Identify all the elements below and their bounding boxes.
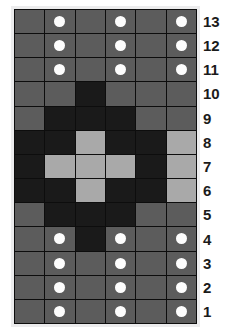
dot-symbol-icon: [54, 40, 65, 51]
grid-cell[interactable]: [167, 276, 196, 299]
grid-cell[interactable]: [45, 227, 74, 250]
grid-cell[interactable]: [136, 300, 165, 323]
grid-cell[interactable]: [76, 155, 105, 178]
grid-cell[interactable]: [76, 131, 105, 154]
grid-cell[interactable]: [15, 107, 44, 130]
grid-cell[interactable]: [136, 34, 165, 57]
dot-symbol-icon: [176, 258, 187, 269]
grid-cell[interactable]: [15, 82, 44, 105]
grid-cell[interactable]: [167, 300, 196, 323]
row-number-label: 3: [203, 251, 235, 275]
grid-cell[interactable]: [15, 155, 44, 178]
grid-cell[interactable]: [106, 58, 135, 81]
grid-cell[interactable]: [136, 131, 165, 154]
grid-cell[interactable]: [15, 58, 44, 81]
dot-symbol-icon: [176, 306, 187, 317]
grid-cell[interactable]: [76, 179, 105, 202]
pattern-grid[interactable]: [14, 9, 197, 324]
grid-cell[interactable]: [15, 10, 44, 33]
grid-cell[interactable]: [136, 107, 165, 130]
grid-cell[interactable]: [15, 300, 44, 323]
grid-cell[interactable]: [106, 300, 135, 323]
row-number-label: 13: [203, 9, 235, 33]
grid-cell[interactable]: [45, 131, 74, 154]
grid-cell[interactable]: [45, 107, 74, 130]
dot-symbol-icon: [115, 40, 126, 51]
grid-cell[interactable]: [106, 203, 135, 226]
grid-cell[interactable]: [136, 276, 165, 299]
grid-cell[interactable]: [15, 252, 44, 275]
grid-cell[interactable]: [106, 34, 135, 57]
dot-symbol-icon: [115, 16, 126, 27]
grid-cell[interactable]: [167, 252, 196, 275]
grid-cell[interactable]: [45, 34, 74, 57]
grid-cell[interactable]: [136, 155, 165, 178]
grid-cell[interactable]: [45, 155, 74, 178]
grid-cell[interactable]: [45, 203, 74, 226]
grid-cell[interactable]: [167, 131, 196, 154]
grid-cell[interactable]: [76, 58, 105, 81]
row-number-label: 2: [203, 276, 235, 300]
grid-cell[interactable]: [15, 179, 44, 202]
grid-cell[interactable]: [76, 82, 105, 105]
grid-cell[interactable]: [167, 155, 196, 178]
dot-symbol-icon: [54, 64, 65, 75]
grid-cell[interactable]: [15, 131, 44, 154]
grid-cell[interactable]: [15, 276, 44, 299]
dot-symbol-icon: [115, 64, 126, 75]
row-number-label: 9: [203, 106, 235, 130]
grid-cell[interactable]: [136, 203, 165, 226]
grid-cell[interactable]: [106, 131, 135, 154]
grid-cell[interactable]: [45, 252, 74, 275]
grid-cell[interactable]: [167, 227, 196, 250]
grid-cell[interactable]: [15, 34, 44, 57]
grid-cell[interactable]: [136, 252, 165, 275]
grid-cell[interactable]: [167, 58, 196, 81]
grid-cell[interactable]: [136, 82, 165, 105]
grid-cell[interactable]: [106, 252, 135, 275]
dot-symbol-icon: [54, 233, 65, 244]
grid-cell[interactable]: [76, 34, 105, 57]
row-number-label: 5: [203, 203, 235, 227]
grid-cell[interactable]: [167, 107, 196, 130]
grid-cell[interactable]: [136, 10, 165, 33]
grid-cell[interactable]: [15, 203, 44, 226]
dot-symbol-icon: [176, 282, 187, 293]
grid-cell[interactable]: [45, 58, 74, 81]
grid-cell[interactable]: [106, 82, 135, 105]
grid-cell[interactable]: [76, 10, 105, 33]
grid-cell[interactable]: [45, 10, 74, 33]
grid-cell[interactable]: [76, 276, 105, 299]
dot-symbol-icon: [54, 258, 65, 269]
grid-cell[interactable]: [167, 179, 196, 202]
grid-cell[interactable]: [45, 179, 74, 202]
dot-symbol-icon: [176, 40, 187, 51]
grid-cell[interactable]: [136, 58, 165, 81]
grid-cell[interactable]: [106, 107, 135, 130]
grid-cell[interactable]: [106, 10, 135, 33]
grid-cell[interactable]: [45, 276, 74, 299]
grid-cell[interactable]: [76, 252, 105, 275]
grid-cell[interactable]: [136, 179, 165, 202]
grid-cell[interactable]: [76, 227, 105, 250]
grid-cell[interactable]: [167, 34, 196, 57]
grid-cell[interactable]: [167, 10, 196, 33]
row-number-axis: 13121110987654321: [203, 9, 235, 324]
grid-cell[interactable]: [167, 203, 196, 226]
grid-cell[interactable]: [45, 300, 74, 323]
grid-cell[interactable]: [106, 155, 135, 178]
grid-cell[interactable]: [106, 276, 135, 299]
row-number-label: 1: [203, 300, 235, 324]
grid-cell[interactable]: [106, 227, 135, 250]
grid-cell[interactable]: [76, 300, 105, 323]
grid-cell[interactable]: [106, 179, 135, 202]
grid-cell[interactable]: [45, 82, 74, 105]
grid-cell[interactable]: [15, 227, 44, 250]
row-number-label: 7: [203, 154, 235, 178]
row-number-label: 8: [203, 130, 235, 154]
grid-cell[interactable]: [136, 227, 165, 250]
grid-cell[interactable]: [76, 107, 105, 130]
grid-cell[interactable]: [167, 82, 196, 105]
row-number-label: 4: [203, 227, 235, 251]
grid-cell[interactable]: [76, 203, 105, 226]
